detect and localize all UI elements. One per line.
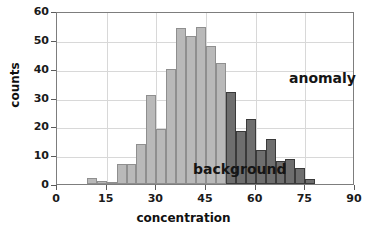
x-tick-mark: [304, 185, 305, 190]
x-axis-title: concentration: [0, 211, 367, 225]
x-tick-label: 45: [185, 192, 225, 205]
bar-background-21: [127, 164, 137, 184]
bar-background-15: [107, 182, 117, 184]
x-tick-mark: [56, 185, 57, 190]
x-tick-mark: [205, 185, 206, 190]
x-tick-label: 60: [235, 192, 275, 205]
bar-background-27: [146, 95, 156, 184]
x-tick-label: 75: [284, 192, 324, 205]
bar-background-36: [176, 28, 186, 184]
x-tick-label: 15: [86, 192, 126, 205]
x-tick-mark: [106, 185, 107, 190]
plot-area: anomaly background: [56, 12, 354, 185]
x-tick-label: 0: [36, 192, 76, 205]
bar-anomaly-75: [305, 179, 315, 184]
chart-root: counts 6050403020100 anomaly background …: [0, 0, 367, 234]
y-tick-label: 30: [9, 93, 49, 104]
x-tick-mark: [155, 185, 156, 190]
x-tick-mark: [255, 185, 256, 190]
y-tick-label: 20: [9, 121, 49, 132]
y-tick-label: 40: [9, 64, 49, 75]
annotation-anomaly: anomaly: [289, 70, 356, 86]
bar-background-24: [136, 144, 146, 184]
x-tick-label: 90: [334, 192, 367, 205]
bar-anomaly-72: [295, 168, 305, 184]
annotation-background: background: [193, 161, 287, 177]
bar-background-9: [87, 178, 97, 184]
bar-anomaly-69: [285, 159, 295, 184]
x-tick-mark: [354, 185, 355, 190]
bar-background-12: [97, 181, 107, 184]
y-tick-label: 50: [9, 35, 49, 46]
bar-background-30: [156, 129, 166, 184]
y-tick-label: 60: [9, 6, 49, 17]
bar-background-33: [166, 69, 176, 184]
x-tick-label: 30: [135, 192, 175, 205]
y-tick-label: 0: [9, 179, 49, 190]
bar-background-18: [117, 164, 127, 184]
y-tick-label: 10: [9, 150, 49, 161]
y-axis-title: counts: [8, 40, 22, 130]
